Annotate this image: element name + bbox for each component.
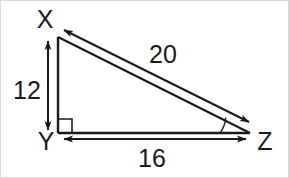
right-angle-marker xyxy=(58,119,72,133)
triangle-figure: X Y Z 12 16 20 xyxy=(0,0,289,178)
measure-label-20: 20 xyxy=(149,40,177,68)
vertex-label-x: X xyxy=(37,5,54,33)
vertex-label-y: Y xyxy=(38,127,55,155)
measure-label-16: 16 xyxy=(138,144,166,172)
vertex-label-z: Z xyxy=(257,127,272,155)
triangle-diagram-svg: X Y Z 12 16 20 xyxy=(0,0,289,178)
measure-label-12: 12 xyxy=(13,76,41,104)
